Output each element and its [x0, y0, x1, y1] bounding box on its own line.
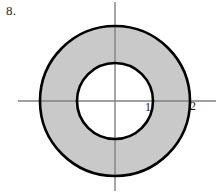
annulus-shaded-region	[0, 0, 221, 193]
annulus-diagram	[0, 0, 221, 193]
x-tick-label-2: 2	[190, 100, 196, 112]
figure-container: 8. 1 2	[0, 0, 221, 193]
x-tick-label-1: 1	[145, 101, 151, 113]
